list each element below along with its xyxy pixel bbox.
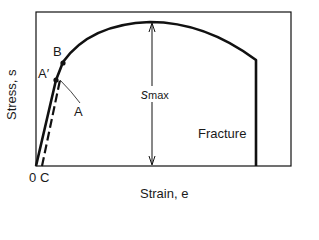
point-a-prime-label: A′: [38, 66, 49, 81]
smax-symbol: s: [141, 86, 148, 102]
fracture-label: Fracture: [198, 126, 246, 141]
point-c-label: C: [40, 170, 49, 185]
point-a-label: A: [74, 104, 83, 119]
smax-label: smax: [140, 86, 170, 102]
smax-subscript: max: [148, 89, 169, 101]
point-a-prime-marker: [53, 77, 58, 82]
point-b-marker: [60, 60, 65, 65]
point-b-label: B: [53, 44, 62, 59]
origin-label: 0: [29, 170, 36, 185]
x-axis-label: Strain, e: [140, 186, 188, 201]
point-a-leader: [60, 80, 80, 103]
y-axis-label: Stress, s: [4, 69, 19, 120]
